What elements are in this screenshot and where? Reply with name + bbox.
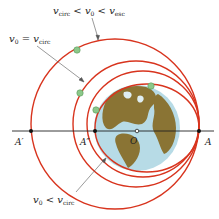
satellite-icon	[77, 90, 83, 96]
satellite-icon	[93, 107, 99, 113]
label-a: A	[205, 138, 212, 147]
label-o: O	[130, 137, 137, 146]
point-a-double-prime-dot	[93, 129, 97, 133]
point-a-prime-dot	[29, 129, 33, 133]
label-vcirc-lt-v0-lt-vesc: vcirc < v0 < vesc	[53, 6, 125, 17]
label-v0-lt-vcirc: v0 < vcirc	[33, 195, 74, 206]
arrowhead-icon	[102, 158, 106, 163]
satellite-icon	[74, 47, 80, 53]
point-o-dot	[135, 129, 139, 133]
earth	[94, 85, 180, 171]
arrowhead-icon	[96, 35, 100, 40]
label-a-prime: A′	[15, 138, 24, 147]
label-a-double-prime: A″	[80, 138, 90, 147]
satellite-icon	[148, 83, 154, 89]
label-v0-eq-vcirc: v0 = vcirc	[9, 34, 50, 45]
point-a-dot	[197, 129, 201, 133]
